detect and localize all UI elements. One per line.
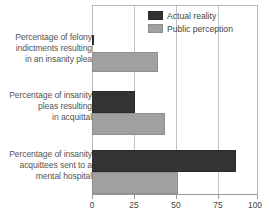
category-label-line: in acquittal bbox=[2, 112, 92, 123]
legend-label: Public perception bbox=[167, 24, 233, 34]
bar-public-perception-insanity-pleas-acquittal bbox=[92, 113, 165, 135]
legend-item-public-perception: Public perception bbox=[148, 23, 233, 34]
category-label-line: Percentage of insanity bbox=[2, 149, 92, 160]
category-label-line: Percentage of felony bbox=[2, 32, 92, 43]
bar-actual-reality-felony-indictments bbox=[92, 35, 94, 45]
legend: Actual reality Public perception bbox=[148, 10, 233, 34]
gray-swatch-icon bbox=[148, 24, 163, 33]
tick-mark-100 bbox=[257, 195, 258, 199]
legend-label: Actual reality bbox=[167, 11, 216, 21]
dark-swatch-icon bbox=[148, 11, 163, 20]
legend-item-actual-reality: Actual reality bbox=[148, 10, 233, 21]
category-label-line: in an insanity plea bbox=[2, 54, 92, 65]
tick-mark-50 bbox=[176, 195, 177, 199]
bar-actual-reality-insanity-pleas-acquittal bbox=[92, 91, 135, 113]
category-label-line: Percentage of insanity bbox=[2, 90, 92, 101]
category-label-line: mental hospital bbox=[2, 171, 92, 182]
tick-label-75: 75 bbox=[213, 200, 222, 210]
category-label-felony-indictments: Percentage of felony indictments resulti… bbox=[2, 32, 92, 66]
tick-label-50: 50 bbox=[171, 200, 180, 210]
tick-label-0: 0 bbox=[90, 200, 95, 210]
category-label-line: indictments resulting bbox=[2, 43, 92, 54]
tick-mark-25 bbox=[134, 195, 135, 199]
bar-public-perception-acquittees-mental-hospital bbox=[92, 172, 178, 194]
tick-label-100: 100 bbox=[248, 200, 262, 210]
bar-actual-reality-acquittees-mental-hospital bbox=[92, 150, 236, 172]
category-label-line: pleas resulting bbox=[2, 101, 92, 112]
tick-mark-0 bbox=[92, 195, 93, 199]
category-label-insanity-pleas-acquittal: Percentage of insanity pleas resulting i… bbox=[2, 90, 92, 124]
tick-label-25: 25 bbox=[129, 200, 138, 210]
bar-chart: Percentage of felony indictments resulti… bbox=[0, 0, 268, 222]
category-label-acquittees-mental-hospital: Percentage of insanity acquittees sent t… bbox=[2, 149, 92, 183]
tick-mark-75 bbox=[218, 195, 219, 199]
category-label-line: acquittees sent to a bbox=[2, 160, 92, 171]
bar-public-perception-felony-indictments bbox=[92, 52, 158, 72]
